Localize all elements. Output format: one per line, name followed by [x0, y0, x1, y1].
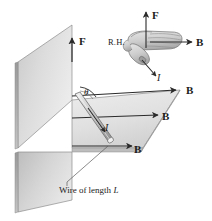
vertical-plane-lower-edge	[15, 152, 18, 213]
vertical-plane-upper-edge	[15, 62, 18, 149]
current-label-main: I	[105, 123, 108, 133]
horizontal-plane-edge	[72, 148, 143, 152]
vertical-plane-upper	[18, 25, 72, 148]
vertical-plane-lower	[18, 152, 72, 212]
wire-caption-text: Wire of length	[59, 185, 113, 195]
physics-figure: F θ I B B B Wire of length L R.H. F B I	[0, 0, 212, 221]
field-label-top: B	[186, 85, 193, 96]
wire-caption-symbol: L	[113, 185, 118, 195]
field-label-middle: B	[162, 111, 169, 122]
inset-current-arrow	[142, 60, 156, 76]
force-label-main: F	[79, 36, 86, 47]
wire-caption: Wire of length L	[59, 185, 118, 195]
inset-current-label: I	[157, 73, 160, 83]
field-label-bottom: B	[134, 144, 141, 155]
inset-right-hand-rule	[123, 12, 192, 76]
inset-force-label: F	[152, 10, 159, 21]
inset-field-label: B	[196, 37, 203, 48]
angle-theta-label: θ	[84, 88, 88, 97]
right-hand-label: R.H.	[108, 38, 125, 47]
